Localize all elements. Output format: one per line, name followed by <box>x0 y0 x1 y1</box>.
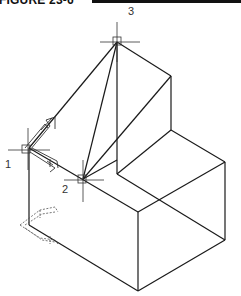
point-label-1: 1 <box>5 158 11 170</box>
point-label-2: 2 <box>62 183 68 195</box>
point-label-3: 3 <box>128 5 134 17</box>
isometric-drawing: 1 2 3 <box>0 0 241 296</box>
crosshair-icon-point-2 <box>64 160 104 202</box>
ucs-icon <box>25 117 58 172</box>
solid-edges <box>29 42 225 291</box>
